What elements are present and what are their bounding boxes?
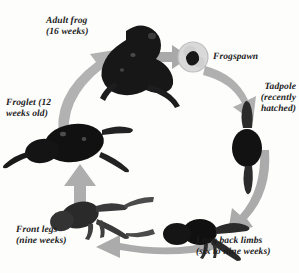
label-froglet: Froglet (12 weeks old) xyxy=(6,98,78,120)
arrow-tadpole-to-long-back-limbs xyxy=(228,150,269,232)
arrow-adult-to-frogspawn xyxy=(150,45,190,69)
arrow-front-legs-to-froglet xyxy=(64,164,96,206)
label-long-back-limbs: Long back limbs (six to nine weeks) xyxy=(196,236,297,258)
arrow-froglet-to-adult-frog xyxy=(58,50,115,142)
label-front-legs: Front legs (nine weeks) xyxy=(16,225,96,247)
label-adult-frog: Adult frog (16 weeks) xyxy=(46,16,122,38)
froglet-image xyxy=(3,120,133,172)
label-tadpole: Tadpole (recently hatched) xyxy=(228,82,296,116)
label-frogspawn: Frogspawn xyxy=(213,52,293,63)
frogspawn-image xyxy=(178,42,208,72)
frog-life-cycle-diagram: Adult frog (16 weeks) Froglet (12 weeks … xyxy=(0,0,299,273)
